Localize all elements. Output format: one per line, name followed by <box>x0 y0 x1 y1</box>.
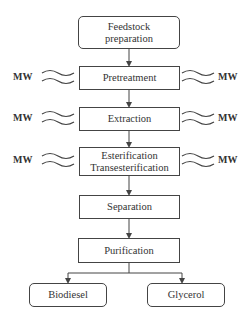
feedstock-preparation-box: Feedstock preparation <box>78 16 180 49</box>
mw-label-extraction-left: MW <box>13 112 32 124</box>
pretreatment-label: Pretreatment <box>103 72 157 84</box>
microwave-wave-icon <box>42 162 74 167</box>
biodiesel-process-flowchart: Feedstock preparation Pretreatment Extra… <box>0 0 252 319</box>
mw-label-pretreatment-left: MW <box>13 71 32 83</box>
mw-label-esterification-right: MW <box>218 154 237 166</box>
microwave-wave-icon <box>42 120 74 125</box>
esterification-label-line2: Transesterification <box>90 162 168 174</box>
microwave-wave-icon <box>42 112 74 117</box>
microwave-wave-icon <box>42 79 74 84</box>
biodiesel-label: Biodiesel <box>48 289 88 301</box>
esterification-label-line1: Esterification <box>101 150 158 162</box>
separation-box: Separation <box>79 195 180 219</box>
esterification-box: Esterification Transesterification <box>79 147 180 176</box>
microwave-wave-icon <box>182 79 214 84</box>
extraction-label: Extraction <box>108 113 152 125</box>
microwave-wave-icon <box>182 120 214 125</box>
mw-label-pretreatment-right: MW <box>218 71 237 83</box>
extraction-box: Extraction <box>79 107 180 131</box>
microwave-wave-icon <box>182 112 214 117</box>
mw-label-extraction-right: MW <box>218 112 237 124</box>
separation-label: Separation <box>107 201 152 213</box>
microwave-wave-icon <box>42 71 74 76</box>
purification-label: Purification <box>104 245 154 257</box>
purification-box: Purification <box>78 238 180 263</box>
pretreatment-box: Pretreatment <box>79 66 180 90</box>
microwave-wave-icon <box>182 71 214 76</box>
microwave-wave-icon <box>182 162 214 167</box>
glycerol-label: Glycerol <box>168 289 205 301</box>
mw-label-esterification-left: MW <box>13 154 32 166</box>
microwave-wave-icon <box>42 154 74 159</box>
biodiesel-box: Biodiesel <box>29 283 107 307</box>
glycerol-box: Glycerol <box>147 283 225 307</box>
feedstock-label-line2: preparation <box>105 33 153 45</box>
microwave-wave-icon <box>182 154 214 159</box>
feedstock-label-line1: Feedstock <box>108 21 151 33</box>
